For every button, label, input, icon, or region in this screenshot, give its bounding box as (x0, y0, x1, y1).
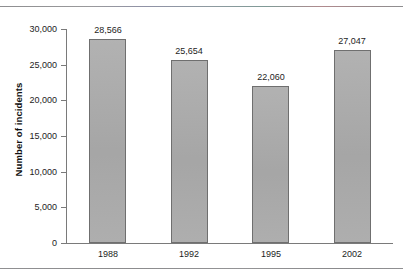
bar-value-label: 25,654 (149, 47, 229, 56)
bar (334, 50, 371, 243)
y-axis-title: Number of incidents (13, 65, 24, 195)
bar-chart: Number of incidents 30,000 25,000 20,000… (0, 0, 403, 278)
y-tick-mark (61, 100, 66, 101)
y-tick-mark (61, 207, 66, 208)
x-axis-category-label: 1992 (149, 250, 229, 259)
bar (89, 39, 126, 243)
y-tick-mark (61, 172, 66, 173)
y-tick-mark (61, 243, 66, 244)
y-axis-tick-label: 25,000 (29, 61, 57, 70)
x-axis-line (66, 243, 393, 244)
y-tick-mark (61, 29, 66, 30)
y-axis-tick-label: 15,000 (29, 132, 57, 141)
x-axis-category-label: 2002 (312, 250, 392, 259)
y-axis-tick-label: 0 (52, 239, 57, 248)
y-axis-tick-label: 30,000 (29, 25, 57, 34)
bar-value-label: 22,060 (231, 73, 311, 82)
y-axis-line (66, 29, 67, 244)
bar-value-label: 27,047 (312, 37, 392, 46)
bar (252, 86, 289, 243)
y-tick-mark (61, 65, 66, 66)
y-axis-tick-label: 20,000 (29, 96, 57, 105)
y-axis-tick-label: 5,000 (34, 203, 57, 212)
x-axis-category-label: 1988 (68, 250, 148, 259)
y-tick-mark (61, 136, 66, 137)
x-axis-category-label: 1995 (231, 250, 311, 259)
bar (171, 60, 208, 243)
y-axis-tick-label: 10,000 (29, 168, 57, 177)
bar-value-label: 28,566 (68, 26, 148, 35)
